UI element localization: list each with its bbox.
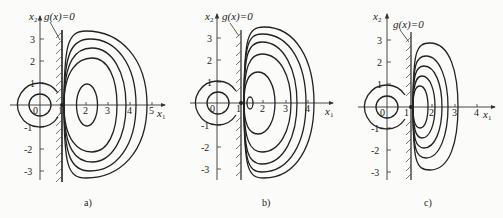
y-tick-label: 3 [377, 35, 382, 46]
x-tick-label: 3 [105, 105, 110, 116]
x-tick-label: 1 [404, 107, 409, 118]
constraint-leader-line [230, 23, 239, 36]
y-axis-label: x2 [372, 10, 382, 24]
y-tick-label: 2 [30, 56, 35, 67]
y-tick-label: -3 [201, 164, 209, 175]
outer-circle-arc [218, 81, 236, 91]
x-axis-label: x1 [324, 105, 334, 119]
y-tick-label: -3 [371, 167, 379, 178]
y-tick-label: -2 [371, 145, 379, 156]
y-tick-label: -3 [24, 166, 32, 177]
x-axis-label: x1 [482, 108, 492, 122]
panel-caption: c) [424, 197, 432, 209]
y-tick-label: 2 [377, 57, 382, 68]
y-axis-label: x2 [28, 10, 38, 24]
x-tick-label: 2 [83, 105, 88, 116]
x-tick-label: 3 [452, 107, 457, 118]
panel-c: 0 1 2 3 4 3 2 1 -1 -2 -3 x2 x1 g(x)=0 [358, 10, 495, 209]
x-tick-label: 2 [429, 107, 434, 118]
y-tick-label: -2 [24, 144, 32, 155]
x-tick-label: 2 [260, 103, 265, 114]
outer-circle-arc [40, 83, 58, 93]
constraint-label: g(x)=0 [393, 18, 424, 31]
tangent-point [239, 101, 243, 105]
x-tick-label: 4 [127, 105, 132, 116]
y-ticks [387, 40, 391, 172]
contour-lines [244, 27, 314, 178]
y-tick-label: 3 [30, 34, 35, 45]
y-ticks [217, 38, 221, 169]
constraint-leader-line [50, 22, 60, 40]
y-tick-label: -2 [201, 142, 209, 153]
y-tick-label: 1 [377, 79, 382, 90]
panel-a: 0 1 2 3 4 5 3 2 1 -1 -2 -3 x2 x1 g(x)=0 [10, 10, 166, 209]
x-tick-label: 5 [149, 105, 154, 116]
x-axis-label: x1 [156, 107, 166, 121]
panel-b: 0 1 2 3 4 3 2 1 -1 -2 -3 x2 x1 g(x)=0 [190, 10, 334, 209]
x-tick-label: 4 [474, 107, 479, 118]
y-axis-label: x2 [204, 10, 214, 24]
constraint-label: g(x)=0 [222, 10, 253, 23]
panel-caption: a) [84, 197, 92, 209]
y-tick-label: 2 [207, 55, 212, 66]
y-tick-label: 3 [207, 33, 212, 44]
outer-circle-arc [387, 85, 405, 95]
figure-canvas: 0 1 2 3 4 5 3 2 1 -1 -2 -3 x2 x1 g(x)=0 [0, 0, 503, 218]
constraint-label: g(x)=0 [44, 10, 75, 23]
x-tick-label: 3 [283, 103, 288, 114]
panel-caption: b) [262, 197, 270, 209]
